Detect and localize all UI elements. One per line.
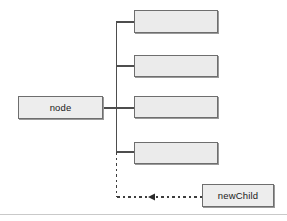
node-box-parent[interactable]: node bbox=[18, 96, 103, 119]
node-label-newchild: newChild bbox=[218, 191, 258, 201]
node-box-child-1[interactable] bbox=[134, 10, 218, 33]
arrowhead-icon bbox=[148, 194, 155, 201]
node-label-parent: node bbox=[50, 103, 72, 113]
diagram-canvas: node newChild bbox=[0, 0, 287, 221]
node-box-child-3[interactable] bbox=[134, 96, 218, 118]
node-box-child-2[interactable] bbox=[134, 55, 218, 77]
node-box-newchild[interactable]: newChild bbox=[202, 184, 274, 207]
node-box-child-4[interactable] bbox=[134, 142, 218, 164]
footer-divider bbox=[0, 214, 287, 215]
